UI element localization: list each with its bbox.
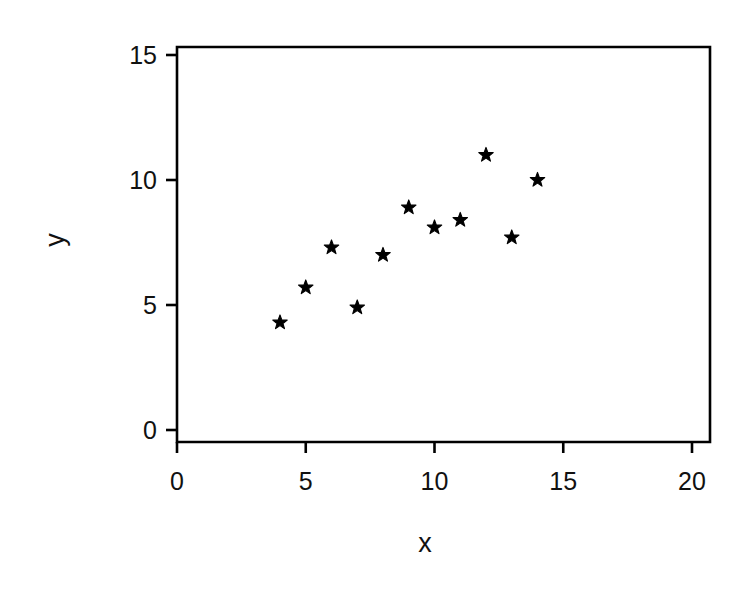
y-tick-label: 15 — [129, 41, 157, 70]
y-tick-label: 0 — [143, 416, 157, 445]
x-tick-label: 20 — [678, 467, 706, 496]
data-point — [530, 172, 544, 186]
x-tick-label: 15 — [549, 467, 577, 496]
data-point — [453, 212, 467, 226]
data-point — [479, 147, 493, 161]
y-tick-label: 10 — [129, 166, 157, 195]
data-point — [505, 230, 519, 244]
data-point — [350, 300, 364, 314]
data-point — [299, 280, 313, 294]
data-point-markers — [273, 147, 545, 328]
plot-canvas — [0, 0, 747, 592]
data-point — [427, 220, 441, 234]
y-tick-label: 5 — [143, 291, 157, 320]
data-point — [376, 247, 390, 261]
x-tick-label: 10 — [421, 467, 449, 496]
y-axis-title: y — [40, 233, 71, 247]
plot-frame — [177, 47, 710, 442]
x-tick-label: 0 — [170, 467, 184, 496]
x-tick-label: 5 — [299, 467, 313, 496]
scatter-plot-figure: 051015 05101520 y x — [0, 0, 747, 592]
data-point — [402, 200, 416, 214]
data-point — [273, 315, 287, 329]
data-point — [324, 240, 338, 254]
x-axis-title: x — [418, 528, 432, 559]
axis-ticks — [166, 55, 692, 453]
